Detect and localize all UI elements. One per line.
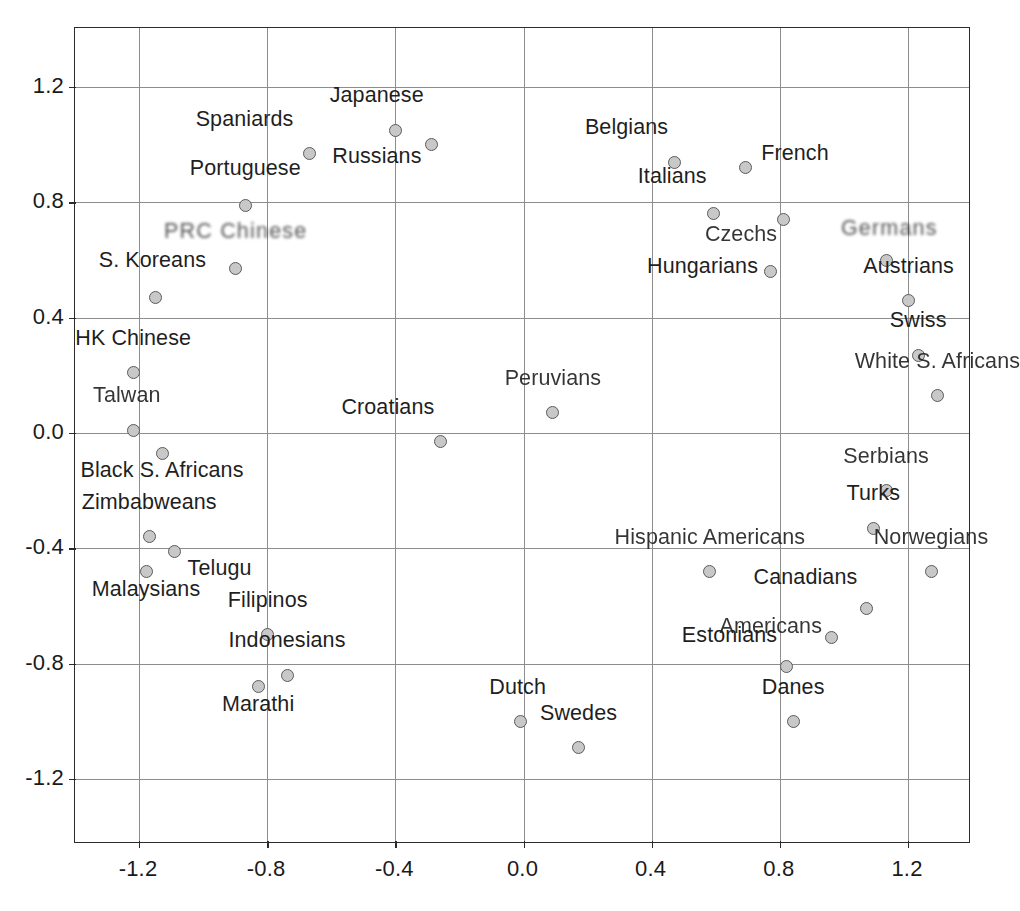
data-point[interactable] [514,715,527,728]
data-point[interactable] [389,124,402,137]
y-axis-tick-mark [69,87,76,88]
y-axis-tick-mark [69,664,76,665]
data-point-label: Serbians [843,446,929,468]
gridline-vertical [908,28,909,842]
data-point-label: Hispanic Americans [615,527,806,549]
data-point[interactable] [931,389,944,402]
data-point[interactable] [168,545,181,558]
data-point[interactable] [281,669,294,682]
gridline-vertical [267,28,268,842]
data-point[interactable] [860,602,873,615]
data-point[interactable] [239,199,252,212]
data-point-label: Japanese [330,85,424,107]
data-point-label: Norwegians [874,527,989,549]
x-axis-tick-label: -0.8 [247,856,286,882]
gridline-horizontal [75,87,969,88]
data-point[interactable] [707,207,720,220]
gridline-vertical [652,28,653,842]
data-point-label: Swiss [890,310,947,332]
data-point[interactable] [703,565,716,578]
data-point-label: Italians [638,166,707,188]
y-axis-tick-label: 0.4 [33,304,64,330]
x-axis-tick-label: 0.4 [635,856,666,882]
data-point-label: Belgians [585,117,668,139]
gridline-horizontal [75,548,969,549]
data-point-label: Peruvians [505,368,602,390]
data-point-label: Filipinos [228,590,308,612]
x-axis-tick-mark [395,841,396,848]
data-point-label: Croatians [341,397,434,419]
data-point[interactable] [777,213,790,226]
data-point-label: Hungarians [647,256,758,278]
gridline-horizontal [75,779,969,780]
x-axis-tick-label: -0.4 [375,856,414,882]
y-axis-tick-label: 0.0 [33,419,64,445]
data-point[interactable] [572,741,585,754]
data-point-label: Zimbabweans [82,492,217,514]
data-point-label: Turks [847,483,900,505]
data-point-label: Malaysians [92,579,201,601]
data-point-label: Danes [762,677,825,699]
data-point[interactable] [925,565,938,578]
y-axis-tick-mark [69,202,76,203]
data-point-label: White S. Africans [855,351,1020,373]
data-point[interactable] [780,660,793,673]
data-point[interactable] [764,265,777,278]
y-axis-tick-mark [69,779,76,780]
x-axis-tick-labels: -1.2-0.8-0.40.00.40.81.2 [0,856,995,896]
data-point-label: Indonesians [228,630,345,652]
gridline-vertical [139,28,140,842]
data-point-label: Portuguese [190,158,301,180]
y-axis-tick-label: -0.4 [25,534,64,560]
data-point-label: Swedes [540,703,617,725]
x-axis-tick-mark [908,841,909,848]
data-point-label: Estonians [682,625,777,647]
data-point[interactable] [143,530,156,543]
plot-area: JapaneseSpaniardsRussiansBelgiansFrenchP… [74,27,970,843]
data-point-label: Russians [332,146,421,168]
data-point-label: S. Koreans [99,250,206,272]
gridline-horizontal [75,318,969,319]
x-axis-tick-label: 0.8 [763,856,794,882]
data-point[interactable] [546,406,559,419]
data-point-label: Austrians [863,256,954,278]
gridline-horizontal [75,664,969,665]
data-point[interactable] [229,262,242,275]
y-axis-tick-labels: 1.20.80.40.0-0.4-0.8-1.2 [0,0,64,911]
data-point[interactable] [787,715,800,728]
data-point-label: French [761,143,829,165]
x-axis-tick-mark [139,841,140,848]
x-axis-tick-mark [652,841,653,848]
x-axis-tick-label: -1.2 [119,856,158,882]
data-point-label: HK Chinese [75,328,191,350]
data-point[interactable] [902,294,915,307]
data-point-label: PRC Chinese [164,221,307,243]
data-point[interactable] [149,291,162,304]
x-axis-tick-label: 0.0 [507,856,538,882]
data-point-label: Germans [841,218,938,240]
y-axis-tick-mark [69,433,76,434]
y-axis-tick-label: 1.2 [33,73,64,99]
data-point-label: Czechs [705,224,777,246]
data-point[interactable] [425,138,438,151]
x-axis-tick-mark [267,841,268,848]
data-point[interactable] [127,366,140,379]
data-point-label: Spaniards [196,109,294,131]
data-point[interactable] [127,424,140,437]
data-point[interactable] [434,435,447,448]
data-point[interactable] [739,161,752,174]
data-point[interactable] [303,147,316,160]
y-axis-tick-label: -1.2 [25,765,64,791]
gridline-horizontal [75,202,969,203]
data-point-label: Dutch [489,677,546,699]
x-axis-tick-mark [780,841,781,848]
y-axis-tick-label: 0.8 [33,188,64,214]
x-axis-tick-label: 1.2 [891,856,922,882]
data-point-label: Marathi [222,694,294,716]
y-axis-tick-mark [69,548,76,549]
y-axis-tick-mark [69,318,76,319]
data-point-label: Black S. Africans [80,460,243,482]
x-axis-tick-mark [524,841,525,848]
data-point[interactable] [825,631,838,644]
